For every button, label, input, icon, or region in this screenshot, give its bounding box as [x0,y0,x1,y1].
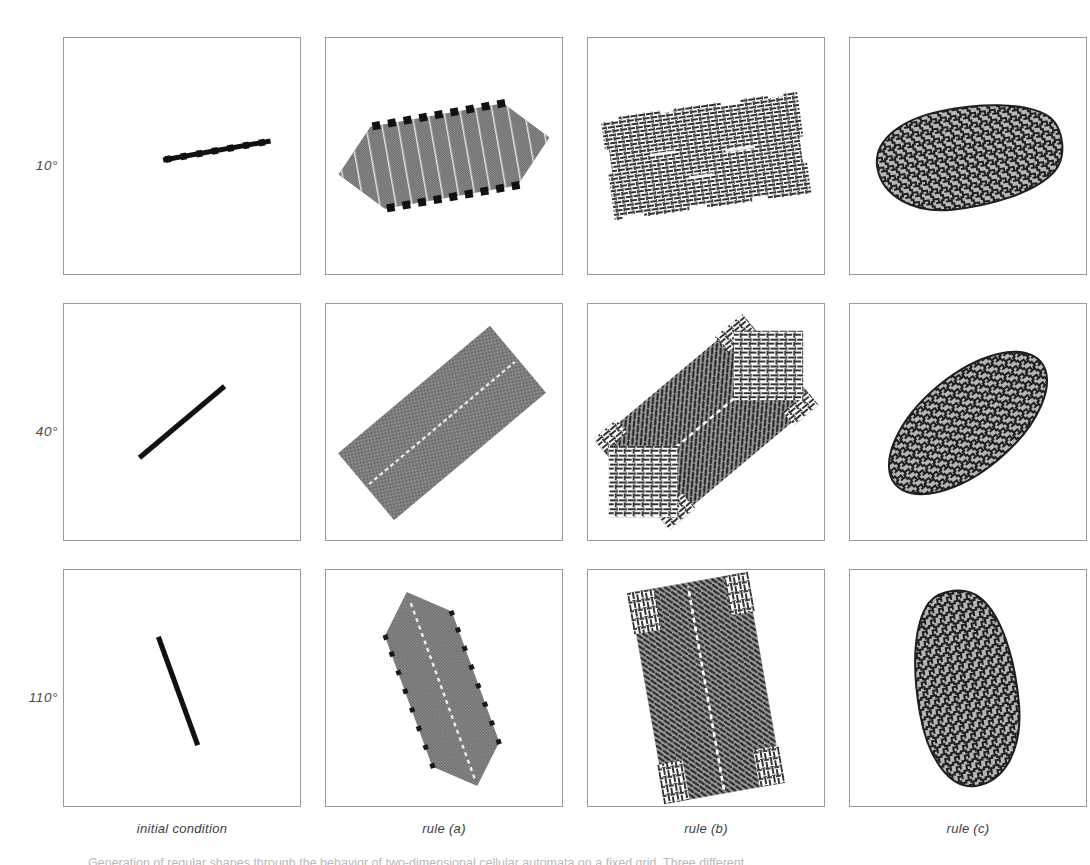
row-label-angle-40: 40° [4,424,58,439]
panel-40deg-initial-condition [63,303,301,541]
plot-40deg-initial [64,304,300,540]
panel-grid: 10° 40° 110° [0,0,1090,865]
plot-110deg-rule-b [588,570,824,806]
panel-10deg-rule-b [587,37,825,275]
plot-40deg-rule-a [326,304,562,540]
panel-110deg-rule-c [849,569,1087,807]
plot-40deg-rule-b [588,304,824,540]
panel-10deg-rule-a [325,37,563,275]
panel-40deg-rule-a [325,303,563,541]
plot-110deg-rule-a [326,570,562,806]
cellular-automaton-figure: 10° 40° 110° [0,0,1090,865]
panel-10deg-initial-condition [63,37,301,275]
panel-110deg-rule-a [325,569,563,807]
panel-40deg-rule-c [849,303,1087,541]
column-label-rule-a: rule (a) [325,821,563,836]
plot-10deg-rule-b [588,38,824,274]
plot-110deg-rule-c [850,570,1086,806]
plot-110deg-initial [64,570,300,806]
figure-caption: Generation of regular shapes through the… [88,856,1018,865]
plot-40deg-rule-c [850,304,1086,540]
plot-10deg-rule-a [326,38,562,274]
column-label-rule-c: rule (c) [849,821,1087,836]
plot-10deg-initial [64,38,300,274]
panel-110deg-initial-condition [63,569,301,807]
column-label-rule-b: rule (b) [587,821,825,836]
row-label-angle-10: 10° [4,158,58,173]
row-label-angle-110: 110° [4,690,58,705]
panel-40deg-rule-b [587,303,825,541]
column-label-initial-condition: initial condition [63,821,301,836]
plot-10deg-rule-c [850,38,1086,274]
panel-110deg-rule-b [587,569,825,807]
panel-10deg-rule-c [849,37,1087,275]
